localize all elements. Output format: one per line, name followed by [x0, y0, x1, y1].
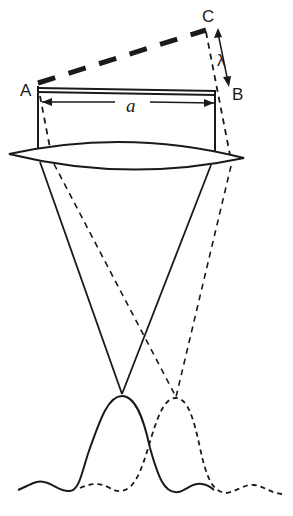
lens: [9, 142, 244, 170]
solid-diffraction-pattern: [18, 396, 214, 492]
aperture-bar-top: [38, 88, 216, 91]
tilted-wavefront-ac: [38, 30, 206, 83]
dashed-ray-left: [54, 164, 176, 397]
diffraction-diagram: a A B C λ: [0, 0, 293, 516]
point-c-label: C: [202, 7, 214, 26]
solid-ray-right: [122, 165, 211, 394]
wavelength-label: λ: [217, 51, 226, 70]
solid-ray-left: [40, 162, 122, 394]
point-a-label: A: [20, 81, 32, 100]
dashed-ray-right: [176, 166, 231, 397]
aperture-label: a: [126, 95, 136, 116]
point-b-label: B: [232, 85, 243, 104]
dashed-diffraction-pattern: [80, 398, 282, 494]
